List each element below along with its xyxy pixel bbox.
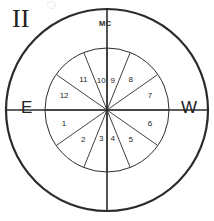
house-number-3: 3	[99, 135, 103, 143]
house-number-9: 9	[110, 77, 114, 85]
house-number-12: 12	[60, 92, 69, 100]
house-number-4: 4	[110, 135, 114, 143]
house-number-7: 7	[148, 92, 152, 100]
east-direction-label: E	[21, 99, 32, 116]
west-direction-label: W	[181, 99, 197, 116]
house-number-2: 2	[81, 136, 85, 144]
house-number-6: 6	[148, 120, 152, 128]
house-number-5: 5	[128, 136, 132, 144]
house-number-11: 11	[79, 76, 87, 84]
house-number-1: 1	[62, 120, 66, 128]
midheaven-label: MC	[99, 19, 111, 28]
gemini-sign-glyph-icon: II	[12, 6, 29, 32]
house-number-10: 10	[97, 77, 106, 85]
house-number-8: 8	[128, 76, 132, 84]
astrology-house-wheel-chart: II MC E W 123456789101112	[0, 0, 214, 221]
